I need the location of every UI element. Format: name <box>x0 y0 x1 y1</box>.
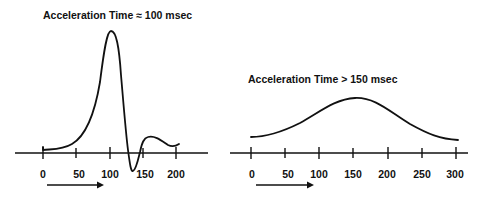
right-chart-title: Acceleration Time > 150 msec <box>248 73 398 85</box>
left-tick-label: 0 <box>40 168 46 180</box>
left-tick-label: 200 <box>167 168 185 180</box>
right-chart: Acceleration Time > 150 msec 0 50 100 15… <box>230 73 468 189</box>
left-waveform <box>43 31 179 171</box>
right-tick-label: 250 <box>413 168 431 180</box>
right-tick-labels: 0 50 100 150 200 250 300 <box>249 168 464 180</box>
right-tick-label: 100 <box>310 168 328 180</box>
left-tick-label: 150 <box>136 168 154 180</box>
right-tick-label: 0 <box>249 168 255 180</box>
figure: Acceleration Time ≈ 100 msec 0 50 100 15… <box>0 0 477 203</box>
left-tick-label: 100 <box>101 168 119 180</box>
right-tick-label: 300 <box>446 168 464 180</box>
left-direction-arrow-icon <box>47 182 104 189</box>
right-direction-arrow-icon <box>256 182 314 189</box>
right-tick-label: 150 <box>344 168 362 180</box>
left-tick-label: 50 <box>73 168 85 180</box>
right-waveform <box>251 98 458 140</box>
left-chart-title: Acceleration Time ≈ 100 msec <box>43 9 192 21</box>
right-tick-label: 50 <box>282 168 294 180</box>
left-tick-labels: 0 50 100 150 200 <box>40 168 185 180</box>
left-chart: Acceleration Time ≈ 100 msec 0 50 100 15… <box>15 9 208 189</box>
right-tick-label: 200 <box>378 168 396 180</box>
